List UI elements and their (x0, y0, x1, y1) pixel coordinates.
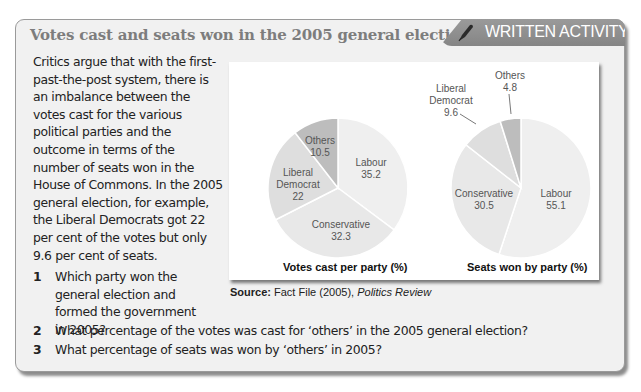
votes-label-libdem-1: Liberal (283, 167, 313, 178)
seats-label-labour: Labour (540, 188, 572, 199)
question-text: What percentage of the votes was cast fo… (55, 322, 528, 340)
votes-label-labour: Labour (355, 157, 387, 168)
intro-paragraph: Critics argue that with the first-past-t… (33, 53, 223, 264)
seats-libdem-leader-line (460, 114, 476, 124)
seats-value-labour: 55.1 (546, 200, 566, 211)
written-activity-panel: Votes cast and seats won in the 2005 gen… (15, 19, 625, 372)
source-publication: Politics Review (357, 286, 431, 298)
seats-chart-caption: Seats won by party (%) (467, 261, 587, 273)
source-text: Fact File (2005), (271, 286, 357, 298)
question-number: 1 (33, 268, 41, 286)
question-number: 2 (33, 322, 41, 340)
seats-others-leader-line (509, 94, 511, 114)
written-activity-tag: WRITTEN ACTIVITY (440, 19, 625, 46)
question-text: What percentage of seats was won by ‘oth… (55, 341, 382, 359)
votes-label-conservative: Conservative (312, 219, 371, 230)
seats-value-libdem: 9.6 (444, 107, 458, 118)
votes-value-conservative: 32.3 (331, 231, 351, 242)
seats-value-others: 4.8 (503, 82, 517, 93)
chart-source: Source: Fact File (2005), Politics Revie… (230, 286, 431, 298)
source-label: Source: (230, 286, 271, 298)
votes-value-labour: 35.2 (361, 169, 381, 180)
seats-label-libdem-2: Democrat (429, 95, 473, 106)
pie-charts-figure: Labour 35.2 Conservative 32.3 Liberal De… (229, 62, 599, 280)
tag-label: WRITTEN ACTIVITY (485, 23, 629, 41)
activity-title: Votes cast and seats won in the 2005 gen… (30, 26, 471, 44)
votes-value-others: 10.5 (310, 147, 330, 158)
votes-value-libdem: 22 (292, 191, 304, 202)
votes-label-libdem-2: Democrat (276, 179, 320, 190)
votes-chart-caption: Votes cast per party (%) (283, 261, 408, 273)
pen-icon (456, 23, 476, 43)
seats-label-libdem-1: Liberal (436, 83, 466, 94)
seats-label-others: Others (495, 70, 525, 81)
question-number: 3 (33, 341, 41, 359)
seats-value-conservative: 30.5 (474, 200, 494, 211)
votes-label-others: Others (305, 135, 335, 146)
seats-label-conservative: Conservative (455, 188, 514, 199)
pie-charts-svg: Labour 35.2 Conservative 32.3 Liberal De… (229, 62, 599, 280)
